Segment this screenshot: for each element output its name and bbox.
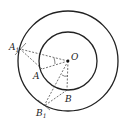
label-B: B [64, 94, 72, 104]
concentric-circles-diagram: O A1 A B B1 [0, 0, 129, 129]
label-A1: A1 [8, 42, 19, 53]
center-point-O [67, 60, 70, 63]
label-A: A [32, 71, 40, 81]
label-B1: B1 [35, 108, 46, 119]
segment-O-B [67, 61, 68, 90]
angle-mark-A [54, 58, 55, 64]
segment-O-A1 [20, 49, 68, 61]
segment-B-B1 [44, 90, 67, 106]
label-O: O [71, 52, 79, 62]
angle-mark-B [62, 75, 67, 76]
